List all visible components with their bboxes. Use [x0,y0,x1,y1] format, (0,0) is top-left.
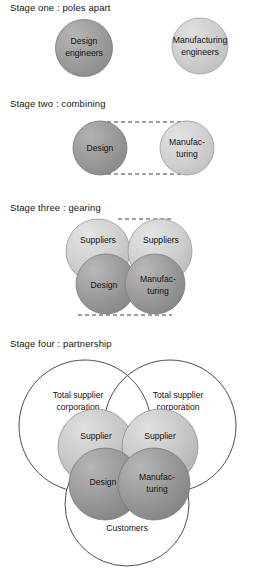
circle-manufacturing-line-1: Manufac- [139,472,175,482]
circle-supplier-left-label: Supplier [80,431,112,441]
circle-manufacturing [160,121,214,175]
circle-design-label: Design [90,477,117,487]
stage-three-figure: Suppliers Suppliers Design Manufac- turi… [0,214,255,320]
circle-design-label: Design [87,143,114,153]
circle-total-supplier-corporation-left-line-1: Total supplier [53,390,104,400]
stage-three-label: Stage three : gearing [10,202,101,213]
circle-manufacturing-engineers [172,18,228,74]
circle-manufacturing-line-1: Manufac- [169,137,205,147]
stage-four-figure: Total supplier corporation Total supplie… [0,352,255,583]
circle-design-engineers-line-2: engineers [65,48,103,58]
circle-design-label: Design [91,280,118,290]
stage-two-label: Stage two : combining [10,98,106,109]
circle-manufacturing-line-2: turing [176,149,198,159]
circle-suppliers-left-label: Suppliers [80,235,116,245]
circle-total-supplier-corporation-right-line-1: Total supplier [153,390,204,400]
circle-manufacturing-line-2: turing [146,484,168,494]
circle-suppliers-right-label: Suppliers [143,235,179,245]
circle-manufacturing-line-1: Manufac- [140,274,176,284]
stage-two-figure: Design Manufac- turing [0,114,255,184]
circle-manufacturing-engineers-line-2: engineers [181,47,219,57]
circle-design-engineers-line-1: Design [71,36,98,46]
circle-manufacturing-engineers-line-1: Manufacturing [173,35,228,45]
diagram-canvas: Stage one : poles apart Design engineers… [0,0,255,583]
circle-manufacturing-line-2: turing [147,286,169,296]
stage-one-figure: Design engineers Manufacturing engineers [0,12,255,94]
circle-supplier-right-label: Supplier [144,431,176,441]
circle-customers-label: Customers [106,523,148,533]
stage-four-label: Stage four : partnership [10,338,112,349]
